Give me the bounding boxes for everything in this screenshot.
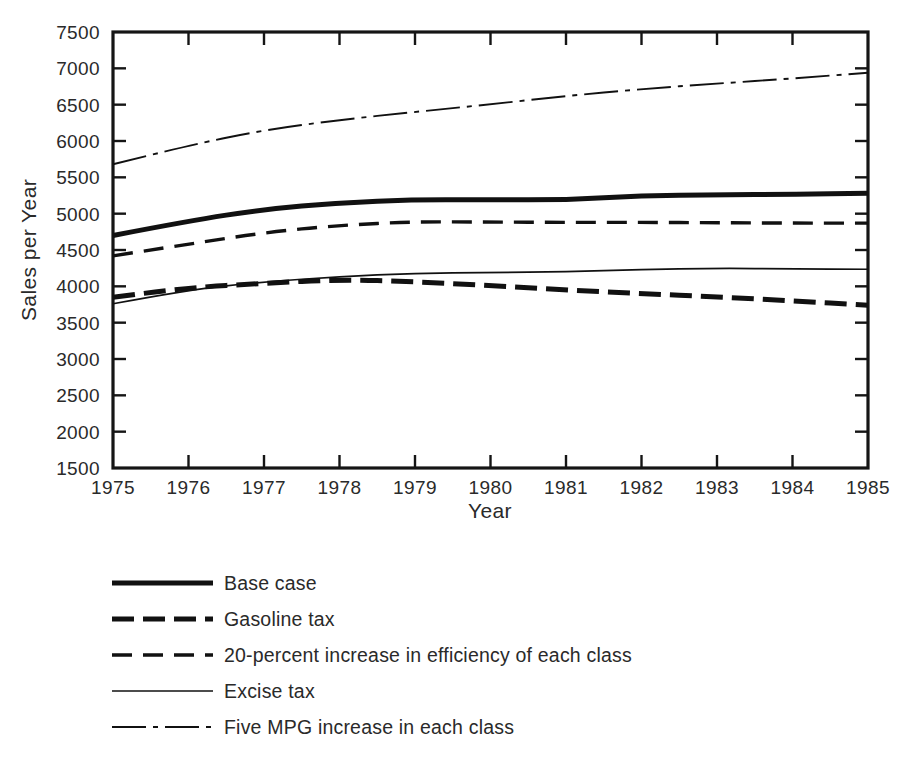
x-axis-title: Year — [468, 499, 512, 522]
x-tick-label: 1982 — [620, 477, 664, 498]
series-line — [113, 73, 868, 165]
y-tick-label: 5500 — [56, 167, 100, 188]
line-chart: 1500200025003000350040004500500055006000… — [0, 0, 906, 774]
legend-label: 20-percent increase in efficiency of eac… — [224, 644, 632, 666]
y-axis-title: Sales per Year — [17, 179, 40, 321]
series-line — [113, 280, 868, 305]
y-tick-label: 5000 — [56, 204, 100, 225]
y-tick-label: 3500 — [56, 313, 100, 334]
x-tick-label: 1977 — [242, 477, 286, 498]
y-axis-tick-labels: 1500200025003000350040004500500055006000… — [56, 22, 100, 479]
series-layer — [113, 73, 868, 306]
x-tick-label: 1984 — [771, 477, 815, 498]
y-tick-label: 3000 — [56, 349, 100, 370]
x-tick-label: 1976 — [167, 477, 211, 498]
x-tick-label: 1981 — [544, 477, 588, 498]
chart-legend: Base caseGasoline tax20-percent increase… — [112, 572, 632, 738]
series-line — [113, 222, 868, 256]
series-line — [113, 193, 868, 235]
y-tick-label: 7000 — [56, 58, 100, 79]
x-tick-label: 1985 — [846, 477, 890, 498]
y-tick-label: 1500 — [56, 458, 100, 479]
y-tick-label: 4000 — [56, 276, 100, 297]
x-axis-tick-labels: 1975197619771978197919801981198219831984… — [91, 477, 890, 498]
x-axis-ticks — [189, 32, 793, 468]
y-tick-label: 2000 — [56, 422, 100, 443]
y-tick-label: 6500 — [56, 95, 100, 116]
plot-frame — [113, 32, 868, 468]
legend-label: Excise tax — [224, 680, 315, 702]
legend-label: Gasoline tax — [224, 608, 335, 630]
legend-label: Base case — [224, 572, 317, 594]
x-tick-label: 1983 — [695, 477, 739, 498]
y-tick-label: 4500 — [56, 240, 100, 261]
y-tick-label: 2500 — [56, 385, 100, 406]
y-axis-ticks — [113, 68, 868, 431]
legend-label: Five MPG increase in each class — [224, 716, 514, 738]
x-tick-label: 1975 — [91, 477, 135, 498]
y-tick-label: 6000 — [56, 131, 100, 152]
y-tick-label: 7500 — [56, 22, 100, 43]
figure-container: 1500200025003000350040004500500055006000… — [0, 0, 906, 774]
x-tick-label: 1978 — [318, 477, 362, 498]
x-tick-label: 1980 — [469, 477, 513, 498]
x-tick-label: 1979 — [393, 477, 437, 498]
